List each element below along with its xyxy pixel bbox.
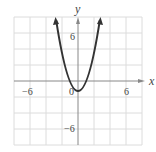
x-axis bbox=[14, 79, 145, 83]
y-tick-pos6: 6 bbox=[70, 31, 75, 42]
left-arrowhead-icon bbox=[53, 17, 59, 25]
right-arrowhead-icon bbox=[97, 17, 103, 25]
x-axis-label: x bbox=[148, 74, 155, 88]
y-tick-neg6: −6 bbox=[64, 123, 75, 134]
y-axis-label: y bbox=[74, 2, 81, 16]
x-tick-pos6: 6 bbox=[124, 86, 129, 97]
x-tick-neg6: −6 bbox=[22, 86, 33, 97]
y-axis-arrow-icon bbox=[76, 17, 80, 24]
parabola-graph: x y −6 0 6 6 −6 bbox=[0, 0, 156, 152]
x-tick-zero: 0 bbox=[69, 86, 74, 97]
